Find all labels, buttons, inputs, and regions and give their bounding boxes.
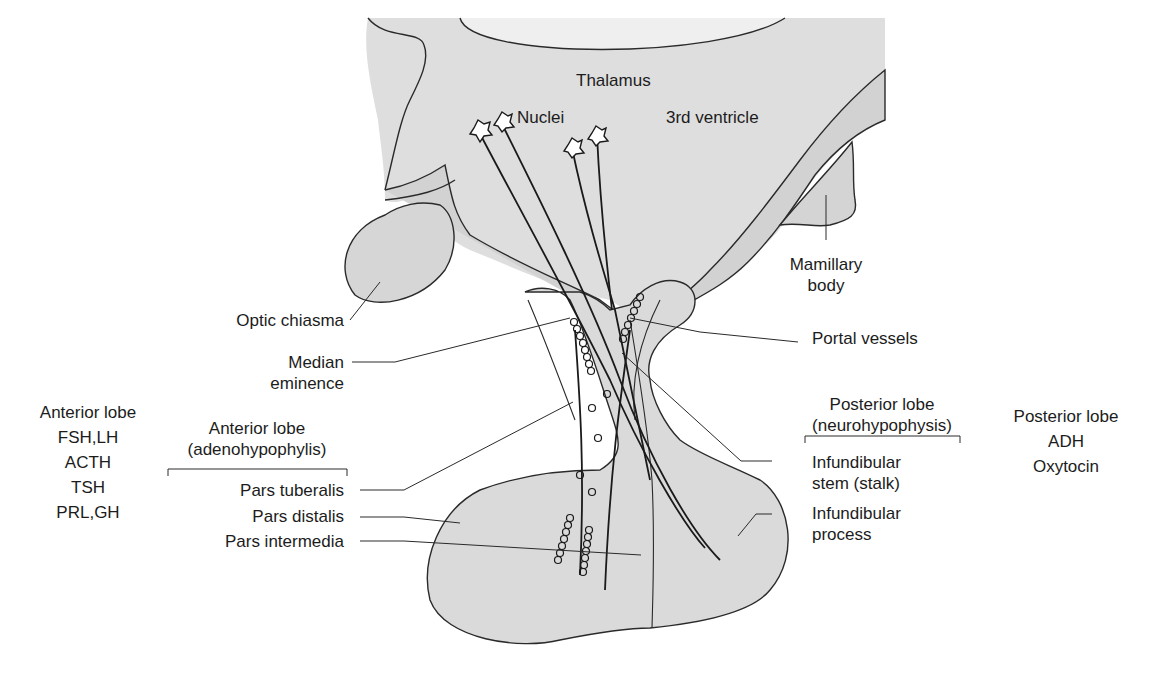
- hormone-tsh: TSH: [20, 475, 156, 500]
- anterior-hormones-list: Anterior lobe FSH,LH ACTH TSH PRL,GH: [20, 400, 156, 525]
- label-pars-tuberalis: Pars tuberalis: [180, 480, 344, 501]
- posterior-hormones-title: Posterior lobe: [996, 404, 1136, 429]
- hormone-prl-gh: PRL,GH: [20, 500, 156, 525]
- hormone-fsh-lh: FSH,LH: [20, 425, 156, 450]
- label-nuclei: Nuclei: [517, 107, 564, 128]
- label-posterior-lobe-group: Posterior lobe (neurohypophysis): [790, 394, 974, 436]
- label-mamillary-body-line1: Mamillary: [770, 254, 882, 275]
- label-anterior-lobe-group: Anterior lobe (adenohypophylis): [160, 418, 354, 460]
- hormone-oxytocin: Oxytocin: [996, 454, 1136, 479]
- anterior-group-subtitle: (adenohypophylis): [160, 439, 354, 460]
- label-median-eminence-line2: eminence: [240, 373, 344, 394]
- label-infundibular-process-line1: Infundibular: [812, 503, 901, 524]
- label-third-ventricle: 3rd ventricle: [666, 107, 759, 128]
- posterior-hormones-list: Posterior lobe ADH Oxytocin: [996, 404, 1136, 479]
- posterior-group-title: Posterior lobe: [790, 394, 974, 415]
- label-infundibular-stem-line2: stem (stalk): [812, 473, 901, 494]
- label-infundibular-stem: Infundibular stem (stalk): [812, 452, 901, 494]
- pituitary-diagram-art: [0, 0, 1152, 683]
- label-thalamus: Thalamus: [576, 70, 651, 91]
- optic-chiasma-shape: [345, 203, 454, 302]
- label-infundibular-process: Infundibular process: [812, 503, 901, 545]
- hormone-acth: ACTH: [20, 450, 156, 475]
- anterior-hormones-title: Anterior lobe: [20, 400, 156, 425]
- label-pars-intermedia: Pars intermedia: [180, 531, 344, 552]
- anterior-group-title: Anterior lobe: [160, 418, 354, 439]
- label-infundibular-stem-line1: Infundibular: [812, 452, 901, 473]
- label-median-eminence-line1: Median: [240, 352, 344, 373]
- label-pars-distalis: Pars distalis: [180, 506, 344, 527]
- label-mamillary-body-line2: body: [770, 275, 882, 296]
- label-optic-chiasma: Optic chiasma: [228, 310, 344, 331]
- hormone-adh: ADH: [996, 429, 1136, 454]
- posterior-group-subtitle: (neurohypophysis): [790, 415, 974, 436]
- label-median-eminence: Median eminence: [240, 352, 344, 394]
- label-mamillary-body: Mamillary body: [770, 254, 882, 296]
- label-portal-vessels: Portal vessels: [812, 328, 918, 349]
- label-infundibular-process-line2: process: [812, 524, 901, 545]
